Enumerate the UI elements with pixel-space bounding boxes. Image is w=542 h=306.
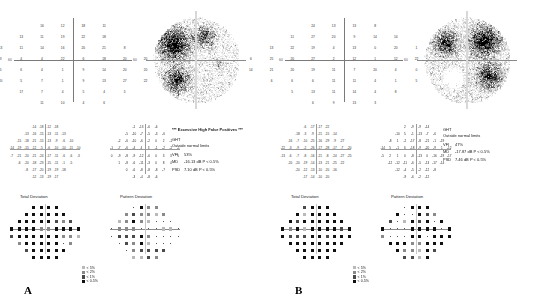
- probability-symbol: [155, 220, 158, 223]
- probability-symbol-fill: [77, 235, 80, 238]
- probability-symbol: [381, 227, 384, 230]
- probability-symbol-fill: [333, 235, 336, 238]
- sensitivity-value: 11: [37, 36, 46, 39]
- sensitivity-value: 14: [371, 36, 380, 39]
- probability-symbol-fill: [32, 235, 35, 238]
- grayscale-map: [423, 16, 511, 104]
- probability-symbol: [132, 206, 135, 209]
- probability-symbol-fill: [326, 213, 329, 216]
- deviation-value: -5: [67, 162, 75, 165]
- deviation-value: -17: [52, 176, 60, 179]
- probability-symbol-fill: [296, 242, 299, 245]
- probability-symbol: [426, 213, 429, 216]
- probability-symbol: [77, 235, 80, 238]
- legend-label: < 0.5%: [87, 279, 98, 283]
- deviation-value: -22: [338, 162, 346, 165]
- sensitivity-value: 4: [58, 91, 67, 94]
- probability-symbol: [403, 227, 406, 230]
- probability-symbol-fill: [162, 213, 165, 216]
- probability-symbol-fill: [55, 206, 58, 209]
- probability-symbol: [147, 256, 150, 259]
- probability-symbol-fill: [411, 242, 414, 245]
- sensitivity-value: 21: [100, 47, 109, 50]
- probability-symbol: [303, 227, 306, 230]
- sensitivity-value: 3: [371, 102, 380, 105]
- probability-symbol-fill: [303, 235, 306, 238]
- psd-label: PSD: [172, 168, 180, 172]
- probability-symbol-fill: [155, 235, 158, 238]
- probability-symbol-fill: [62, 220, 65, 223]
- probability-symbol: [69, 227, 72, 230]
- probability-symbol: [281, 235, 284, 238]
- sensitivity-value: 11: [17, 47, 26, 50]
- probability-symbol: [418, 235, 421, 238]
- probability-symbol-fill: [140, 242, 143, 245]
- probability-symbol-fill: [62, 213, 65, 216]
- sensitivity-value: 11: [329, 80, 338, 83]
- probability-symbol-fill: [296, 213, 299, 216]
- sensitivity-number-grid: 6060241313811272091414132219413020162520…: [279, 12, 409, 108]
- probability-symbol-fill: [40, 249, 43, 252]
- probability-symbol-fill: [403, 227, 406, 230]
- probability-symbol-fill: [333, 242, 336, 245]
- probability-symbol-fill: [77, 227, 80, 230]
- probability-symbol: [25, 249, 28, 252]
- probability-symbol: [47, 227, 50, 230]
- deviation-value: -27: [338, 140, 346, 143]
- probability-symbol-fill: [448, 227, 451, 230]
- probability-symbol: [426, 227, 429, 230]
- probability-symbol-fill: [140, 227, 143, 230]
- probability-symbol-fill: [440, 220, 443, 223]
- sensitivity-value: 20: [141, 69, 150, 72]
- pattern-deviation-probability-plot: [379, 202, 453, 256]
- probability-symbol: [147, 213, 150, 216]
- probability-symbol-fill: [155, 220, 158, 223]
- sensitivity-value: 14: [246, 69, 255, 72]
- panel-letter: B: [295, 284, 302, 296]
- legend-swatch: [353, 275, 356, 278]
- probability-symbol-fill: [47, 249, 50, 252]
- probability-symbol-fill: [162, 220, 165, 223]
- probability-symbol-fill: [326, 249, 329, 252]
- probability-symbol: [326, 235, 329, 238]
- probability-symbol-fill: [433, 220, 436, 223]
- probability-symbol: [311, 206, 314, 209]
- legend-row: < 0.5%: [82, 280, 112, 284]
- probability-symbol-fill: [396, 220, 399, 223]
- probability-symbol: [411, 220, 414, 223]
- deviation-value: -6: [152, 126, 160, 129]
- sensitivity-value: 14: [391, 36, 400, 39]
- sensitivity-value: 14: [350, 91, 359, 94]
- deviation-value: -10: [74, 147, 82, 150]
- probability-symbol-fill: [426, 249, 429, 252]
- probability-symbol-fill: [62, 242, 65, 245]
- probability-symbol-fill: [125, 249, 128, 252]
- probability-symbol: [47, 249, 50, 252]
- probability-symbol: [132, 235, 135, 238]
- probability-symbol-fill: [125, 227, 128, 230]
- probability-symbol-fill: [326, 242, 329, 245]
- psd-label: PSD: [443, 158, 451, 162]
- probability-symbol-fill: [311, 249, 314, 252]
- probability-symbol: [177, 235, 180, 238]
- probability-symbol-fill: [118, 242, 121, 245]
- vertical-axis: [316, 204, 317, 254]
- probability-symbol: [18, 235, 21, 238]
- probability-symbol: [18, 242, 21, 245]
- probability-symbol: [132, 220, 135, 223]
- probability-symbol: [389, 235, 392, 238]
- probability-symbol-fill: [318, 235, 321, 238]
- probability-symbol-fill: [396, 213, 399, 216]
- deviation-value: -3: [74, 155, 82, 158]
- probability-symbol: [140, 256, 143, 259]
- probability-symbol-fill: [418, 242, 421, 245]
- deviation-value: -7: [160, 169, 168, 172]
- probability-symbol-fill: [426, 242, 429, 245]
- probability-symbol: [426, 206, 429, 209]
- probability-symbol: [40, 227, 43, 230]
- probability-symbol: [140, 249, 143, 252]
- probability-symbol: [326, 206, 329, 209]
- probability-symbol: [303, 256, 306, 259]
- probability-symbol: [47, 235, 50, 238]
- panel-letter: A: [24, 284, 32, 296]
